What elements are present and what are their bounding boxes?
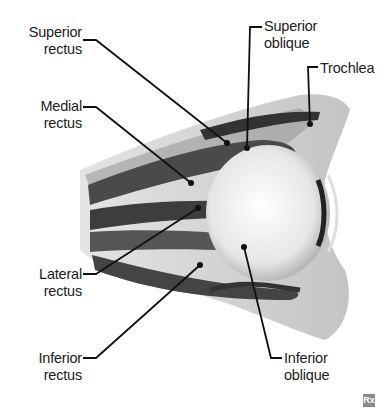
label-medial-rectus: Medial rectus bbox=[0, 98, 82, 132]
label-line: rectus bbox=[0, 115, 82, 132]
label-inferior-rectus: Inferior rectus bbox=[0, 350, 82, 384]
label-superior-rectus: Superior rectus bbox=[0, 24, 82, 58]
label-line: Inferior bbox=[284, 350, 329, 367]
label-line: Lateral bbox=[0, 266, 82, 283]
label-lateral-rectus: Lateral rectus bbox=[0, 266, 82, 300]
rx-logo: Rx bbox=[363, 394, 375, 407]
label-line: Superior bbox=[264, 18, 317, 35]
eye-muscle-diagram: Superior rectus Medial rectus Lateral re… bbox=[0, 0, 390, 418]
label-line: Medial bbox=[0, 98, 82, 115]
label-line: oblique bbox=[284, 367, 329, 384]
label-line: Superior bbox=[0, 24, 82, 41]
label-inferior-oblique: Inferior oblique bbox=[284, 350, 329, 384]
label-line: Trochlea bbox=[320, 60, 374, 77]
label-line: rectus bbox=[0, 367, 82, 384]
label-line: oblique bbox=[264, 35, 317, 52]
label-line: rectus bbox=[0, 41, 82, 58]
eyeball bbox=[206, 145, 330, 281]
label-line: rectus bbox=[0, 283, 82, 300]
label-superior-oblique: Superior oblique bbox=[264, 18, 317, 52]
label-trochlea: Trochlea bbox=[320, 60, 374, 77]
label-line: Inferior bbox=[0, 350, 82, 367]
